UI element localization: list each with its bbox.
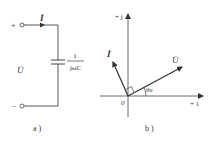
phasor-diagram: + j + 1 0 U̇ İ θu b ) (100, 13, 203, 133)
current-phasor (113, 62, 128, 96)
circuit-diagram: + − İ U̇ 1 jωC a ) (11, 13, 84, 133)
imag-axis-label: + j (115, 13, 123, 21)
impedance-numerator: 1 (73, 52, 77, 60)
terminal-top (20, 23, 24, 27)
diagram-canvas: + − İ U̇ 1 jωC a ) + j + 1 0 U̇ İ θu b ) (0, 0, 213, 144)
terminal-minus-label: − (12, 102, 17, 111)
terminal-bottom (20, 104, 24, 108)
impedance-denominator: jωC (69, 64, 82, 72)
caption-a: a ) (33, 124, 42, 133)
voltage-phasor (128, 67, 182, 96)
caption-b: b ) (145, 124, 154, 133)
voltage-label: U̇ (17, 65, 24, 75)
terminal-plus-label: + (11, 21, 16, 30)
angle-label: θu (146, 86, 153, 93)
voltage-phasor-label: U̇ (172, 55, 179, 65)
current-arrow-icon (40, 23, 45, 28)
origin-label: 0 (121, 99, 125, 107)
real-axis-label: + 1 (190, 100, 200, 108)
current-label: İ (39, 13, 44, 23)
current-phasor-label: İ (106, 49, 111, 59)
